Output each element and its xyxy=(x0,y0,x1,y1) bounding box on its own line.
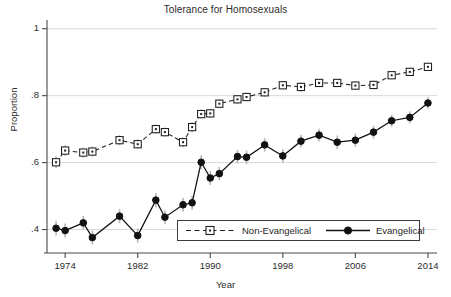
data-point-marker xyxy=(316,132,323,139)
data-point-center xyxy=(264,91,266,93)
data-point-marker xyxy=(180,201,187,208)
data-point-center xyxy=(300,86,302,88)
x-tick-label: 2006 xyxy=(335,260,375,271)
x-tick-label: 1990 xyxy=(190,260,230,271)
x-tick-label: 1982 xyxy=(118,260,158,271)
data-point-marker xyxy=(153,197,160,204)
data-point-marker xyxy=(234,153,241,160)
data-point-marker xyxy=(298,138,305,145)
data-point-marker xyxy=(280,153,287,160)
data-point-marker xyxy=(370,129,377,136)
plot-area xyxy=(0,0,451,297)
data-point-marker xyxy=(207,175,214,182)
data-point-center xyxy=(182,141,184,143)
data-point-marker xyxy=(388,117,395,124)
data-point-marker xyxy=(261,142,268,149)
data-point-marker xyxy=(198,159,205,166)
data-point-center xyxy=(191,126,193,128)
data-point-marker xyxy=(406,114,413,121)
y-tick-label: .4 xyxy=(13,223,39,234)
legend-label-evangelical: Evangelical xyxy=(376,225,425,236)
data-point-marker xyxy=(216,170,223,177)
y-tick-label: .8 xyxy=(13,89,39,100)
data-point-center xyxy=(336,82,338,84)
data-point-marker xyxy=(62,227,69,234)
data-point-marker xyxy=(162,214,169,221)
data-point-marker xyxy=(352,137,359,144)
data-point-marker xyxy=(80,220,87,227)
chart-figure: Tolerance for Homosexuals Proportion Yea… xyxy=(0,0,451,297)
legend-label-non-evangelical: Non-Evangelical xyxy=(242,225,311,236)
legend-swatch-solid-circle-icon xyxy=(324,221,372,240)
data-point-marker xyxy=(134,232,141,239)
data-point-center xyxy=(55,161,57,163)
series-line-evangelical xyxy=(56,103,428,238)
data-point-marker xyxy=(53,225,60,232)
data-point-center xyxy=(155,128,157,130)
data-point-center xyxy=(218,103,220,105)
data-point-center xyxy=(137,143,139,145)
data-point-center xyxy=(409,71,411,73)
x-tick-label: 2014 xyxy=(408,260,448,271)
legend-item-non-evangelical: Non-Evangelical xyxy=(184,221,311,240)
y-tick-label: 1 xyxy=(13,22,39,33)
data-point-marker xyxy=(116,213,123,220)
y-tick-label: .6 xyxy=(13,156,39,167)
data-point-center xyxy=(164,131,166,133)
data-point-marker xyxy=(89,234,96,241)
data-point-marker xyxy=(334,139,341,146)
data-point-center xyxy=(91,151,93,153)
x-tick-label: 1974 xyxy=(45,260,85,271)
data-point-center xyxy=(82,152,84,154)
data-point-center xyxy=(236,98,238,100)
data-point-center xyxy=(200,113,202,115)
data-point-center xyxy=(246,96,248,98)
chart-legend: Non-Evangelical Evangelical xyxy=(177,220,420,241)
data-point-marker xyxy=(425,100,432,107)
data-point-center xyxy=(391,74,393,76)
data-point-marker xyxy=(189,199,196,206)
x-tick-label: 1998 xyxy=(263,260,303,271)
data-point-center xyxy=(318,82,320,84)
data-point-center xyxy=(373,84,375,86)
legend-swatch-dashed-square-icon xyxy=(184,221,238,240)
legend-item-evangelical: Evangelical xyxy=(324,221,425,240)
data-point-center xyxy=(354,85,356,87)
data-point-center xyxy=(119,139,121,141)
data-point-center xyxy=(209,112,211,114)
data-point-center xyxy=(427,66,429,68)
data-point-center xyxy=(64,150,66,152)
data-point-center xyxy=(282,84,284,86)
data-point-marker xyxy=(243,154,250,161)
